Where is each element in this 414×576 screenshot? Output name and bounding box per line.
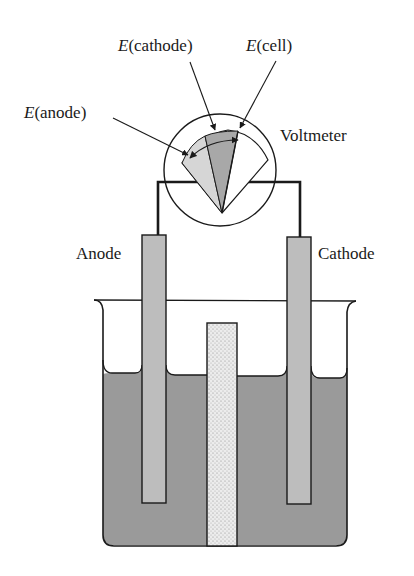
e-cell-symbol: E [246,36,256,55]
diagram-canvas [0,0,414,576]
e-cathode-symbol: E [118,36,128,55]
voltmeter-label: Voltmeter [280,127,347,144]
e-anode-label: E(anode) [24,104,86,121]
e-anode-text: (anode) [34,103,86,122]
voltmeter [164,114,276,226]
cathode-label: Cathode [318,245,375,262]
beaker-rim [94,300,356,301]
anode-label: Anode [76,245,121,262]
anode-electrode [142,235,166,503]
e-cathode-text: (cathode) [128,36,192,55]
e-cell-label: E(cell) [246,37,292,54]
salt-bridge [207,323,237,546]
electrochemical-cell-diagram: E(cathode) E(cell) E(anode) Voltmeter An… [0,0,414,576]
e-cathode-label: E(cathode) [118,37,193,54]
e-anode-symbol: E [24,103,34,122]
cathode-electrode [287,237,311,504]
e-cell-text: (cell) [256,36,292,55]
